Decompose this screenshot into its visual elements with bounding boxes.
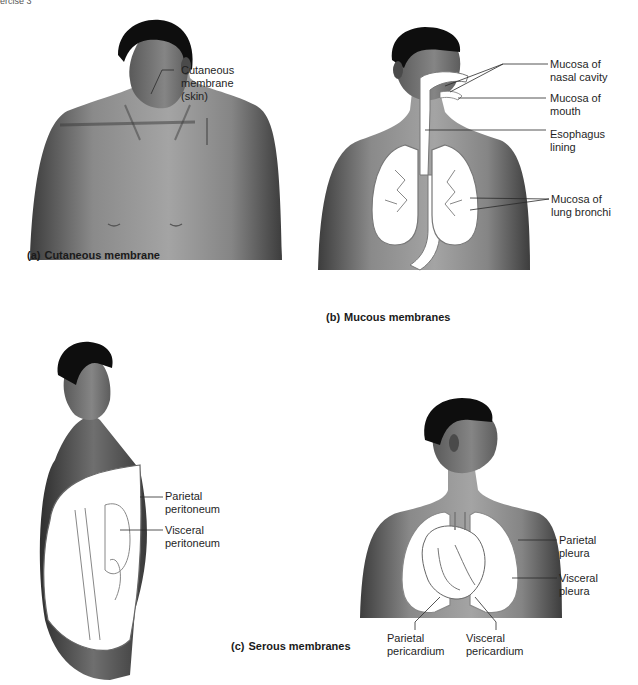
label-line: peritoneum [165, 537, 220, 550]
caption-letter: (c) [231, 640, 244, 652]
figure-c-peritoneum [40, 342, 163, 680]
label-line: lining [550, 141, 605, 154]
label-line: Mucosa of [550, 58, 607, 71]
label-line: Parietal [387, 632, 444, 645]
label-line: peritoneum [165, 503, 220, 516]
figure-b-mucous [318, 27, 549, 270]
label-line: (skin) [181, 90, 234, 103]
label-line: mouth [550, 105, 601, 118]
caption-c: (c)Serous membranes [231, 640, 351, 652]
label-esophagus-lining: Esophagus lining [550, 128, 605, 154]
caption-letter: (a) [27, 249, 40, 261]
caption-a: (a)Cutaneous membrane [27, 249, 160, 261]
label-line: Parietal [559, 534, 596, 547]
caption-text: Serous membranes [248, 640, 350, 652]
label-line: Mucosa of [550, 92, 601, 105]
label-line: lung bronchi [551, 206, 611, 219]
label-line: nasal cavity [550, 71, 607, 84]
label-parietal-pericardium: Parietal pericardium [387, 632, 444, 658]
label-line: Visceral [466, 632, 523, 645]
label-mucosa-mouth: Mucosa of mouth [550, 92, 601, 118]
label-line: Visceral [165, 524, 220, 537]
caption-letter: (b) [326, 311, 340, 323]
label-visceral-peritoneum: Visceral peritoneum [165, 524, 220, 550]
label-line: pericardium [466, 645, 523, 658]
label-line: Cutaneous [181, 64, 234, 77]
label-parietal-peritoneum: Parietal peritoneum [165, 490, 220, 516]
label-line: pleura [559, 585, 598, 598]
label-mucosa-lung-bronchi: Mucosa of lung bronchi [551, 193, 611, 219]
label-visceral-pericardium: Visceral pericardium [466, 632, 523, 658]
label-mucosa-nasal-cavity: Mucosa of nasal cavity [550, 58, 607, 84]
figure-c-pleura-pericardium [360, 398, 562, 630]
label-line: Mucosa of [551, 193, 611, 206]
caption-b: (b)Mucous membranes [326, 311, 450, 323]
label-line: Parietal [165, 490, 220, 503]
label-line: Esophagus [550, 128, 605, 141]
label-line: membrane [181, 77, 234, 90]
caption-text: Cutaneous membrane [44, 249, 160, 261]
label-cutaneous-membrane: Cutaneous membrane (skin) [181, 64, 234, 103]
label-line: pleura [559, 547, 596, 560]
caption-text: Mucous membranes [344, 311, 450, 323]
label-line: Visceral [559, 572, 598, 585]
anatomy-illustrations [0, 0, 638, 685]
figure-a-cutaneous [30, 20, 282, 260]
label-parietal-pleura: Parietal pleura [559, 534, 596, 560]
label-visceral-pleura: Visceral pleura [559, 572, 598, 598]
label-line: pericardium [387, 645, 444, 658]
